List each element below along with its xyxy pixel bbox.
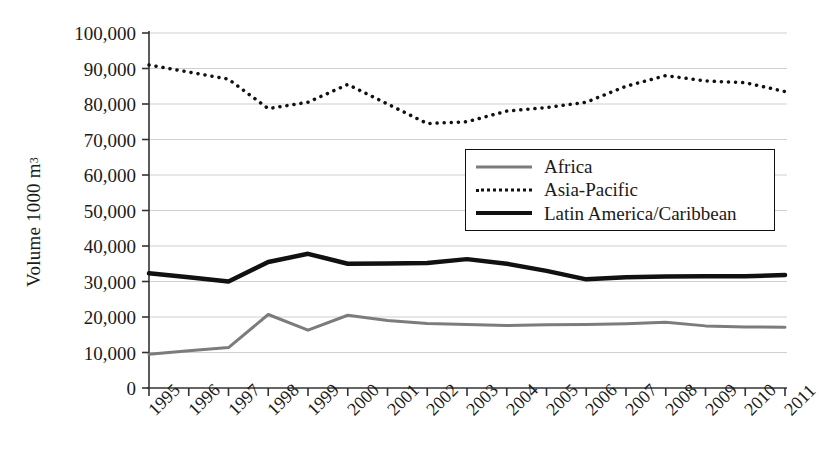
x-axis-tick-label: 1996	[185, 381, 223, 419]
legend-label-latin-america: Latin America/Caribbean	[544, 204, 737, 223]
x-axis-tick-label: 2000	[344, 381, 382, 419]
x-axis-tick-label: 2010	[741, 381, 779, 419]
legend-swatch-asia-pacific-icon	[476, 183, 532, 197]
legend-label-asia-pacific: Asia-Pacific	[544, 180, 638, 199]
x-axis-tick-label: 2002	[423, 381, 461, 419]
legend-item-asia-pacific: Asia-Pacific	[476, 178, 766, 201]
legend-swatch-africa-icon	[476, 160, 532, 174]
x-axis-tick-label: 2005	[543, 381, 581, 419]
legend: Africa Asia-Pacific Latin America/Caribb…	[465, 149, 775, 231]
x-axis-tick-label: 1998	[264, 381, 302, 419]
legend-swatch-latin-america-icon	[476, 206, 532, 220]
x-axis-tick-label: 2006	[582, 381, 620, 419]
x-axis-tick-label: 2008	[662, 381, 700, 419]
x-axis-tick-label: 2004	[503, 381, 541, 419]
x-axis-tick-label: 1997	[225, 381, 263, 419]
x-axis-tick-label: 2009	[702, 381, 740, 419]
legend-item-africa: Africa	[476, 155, 766, 178]
x-axis-tick-label: 1995	[145, 381, 183, 419]
legend-label-africa: Africa	[544, 157, 593, 176]
x-axis-tick-label: 2011	[781, 381, 819, 419]
x-axis-tick-label: 1999	[304, 381, 342, 419]
x-axis-tick-label: 2007	[622, 381, 660, 419]
legend-item-latin-america: Latin America/Caribbean	[476, 202, 766, 225]
x-axis-tick-label: 2001	[384, 381, 422, 419]
x-axis-tick-label: 2003	[463, 381, 501, 419]
